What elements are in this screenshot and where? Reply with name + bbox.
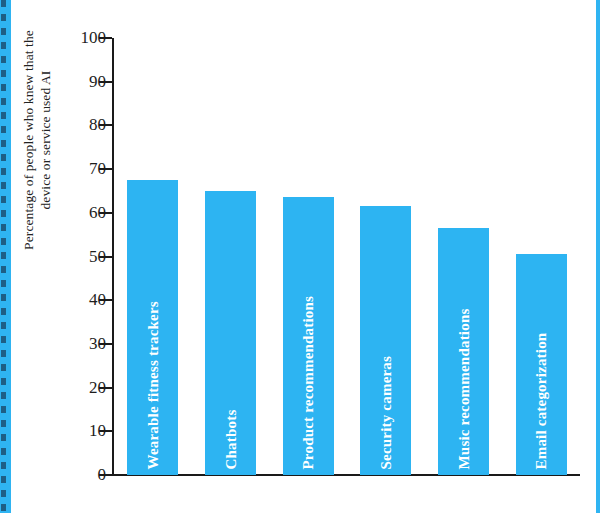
y-tick-mark [99, 387, 112, 389]
bar[interactable]: Product recommendations [283, 197, 334, 475]
bar[interactable]: Music recommendations [438, 228, 489, 475]
bar-category-label: Chatbots [222, 199, 239, 469]
y-tick-mark [99, 256, 112, 258]
y-tick-mark [99, 124, 112, 126]
bar-chart: Percentage of people who knew that the d… [0, 0, 604, 513]
bar[interactable]: Wearable fitness trackers [127, 180, 178, 475]
bar-category-label: Product recommendations [300, 205, 317, 469]
bar-category-label: Wearable fitness trackers [144, 189, 161, 470]
y-tick-mark [99, 37, 112, 39]
y-axis-spine [112, 38, 114, 476]
bar-category-label: Email categorization [533, 263, 550, 470]
chart-page: Percentage of people who knew that the d… [0, 0, 604, 513]
y-tick-mark [99, 474, 112, 476]
bar[interactable]: Chatbots [205, 191, 256, 475]
x-axis-spine [112, 474, 580, 476]
bar[interactable]: Email categorization [516, 254, 567, 475]
y-axis-label: Percentage of people who knew that the d… [18, 0, 58, 290]
bar[interactable]: Security cameras [360, 206, 411, 475]
y-tick-mark [99, 299, 112, 301]
y-tick-mark [99, 81, 112, 83]
y-tick-mark [99, 212, 112, 214]
y-tick-mark [99, 430, 112, 432]
bar-category-label: Music recommendations [455, 237, 472, 470]
y-axis-label-text: Percentage of people who knew that the d… [21, 30, 55, 250]
y-tick-mark [99, 343, 112, 345]
bar-category-label: Security cameras [377, 214, 394, 469]
y-tick-mark [99, 168, 112, 170]
